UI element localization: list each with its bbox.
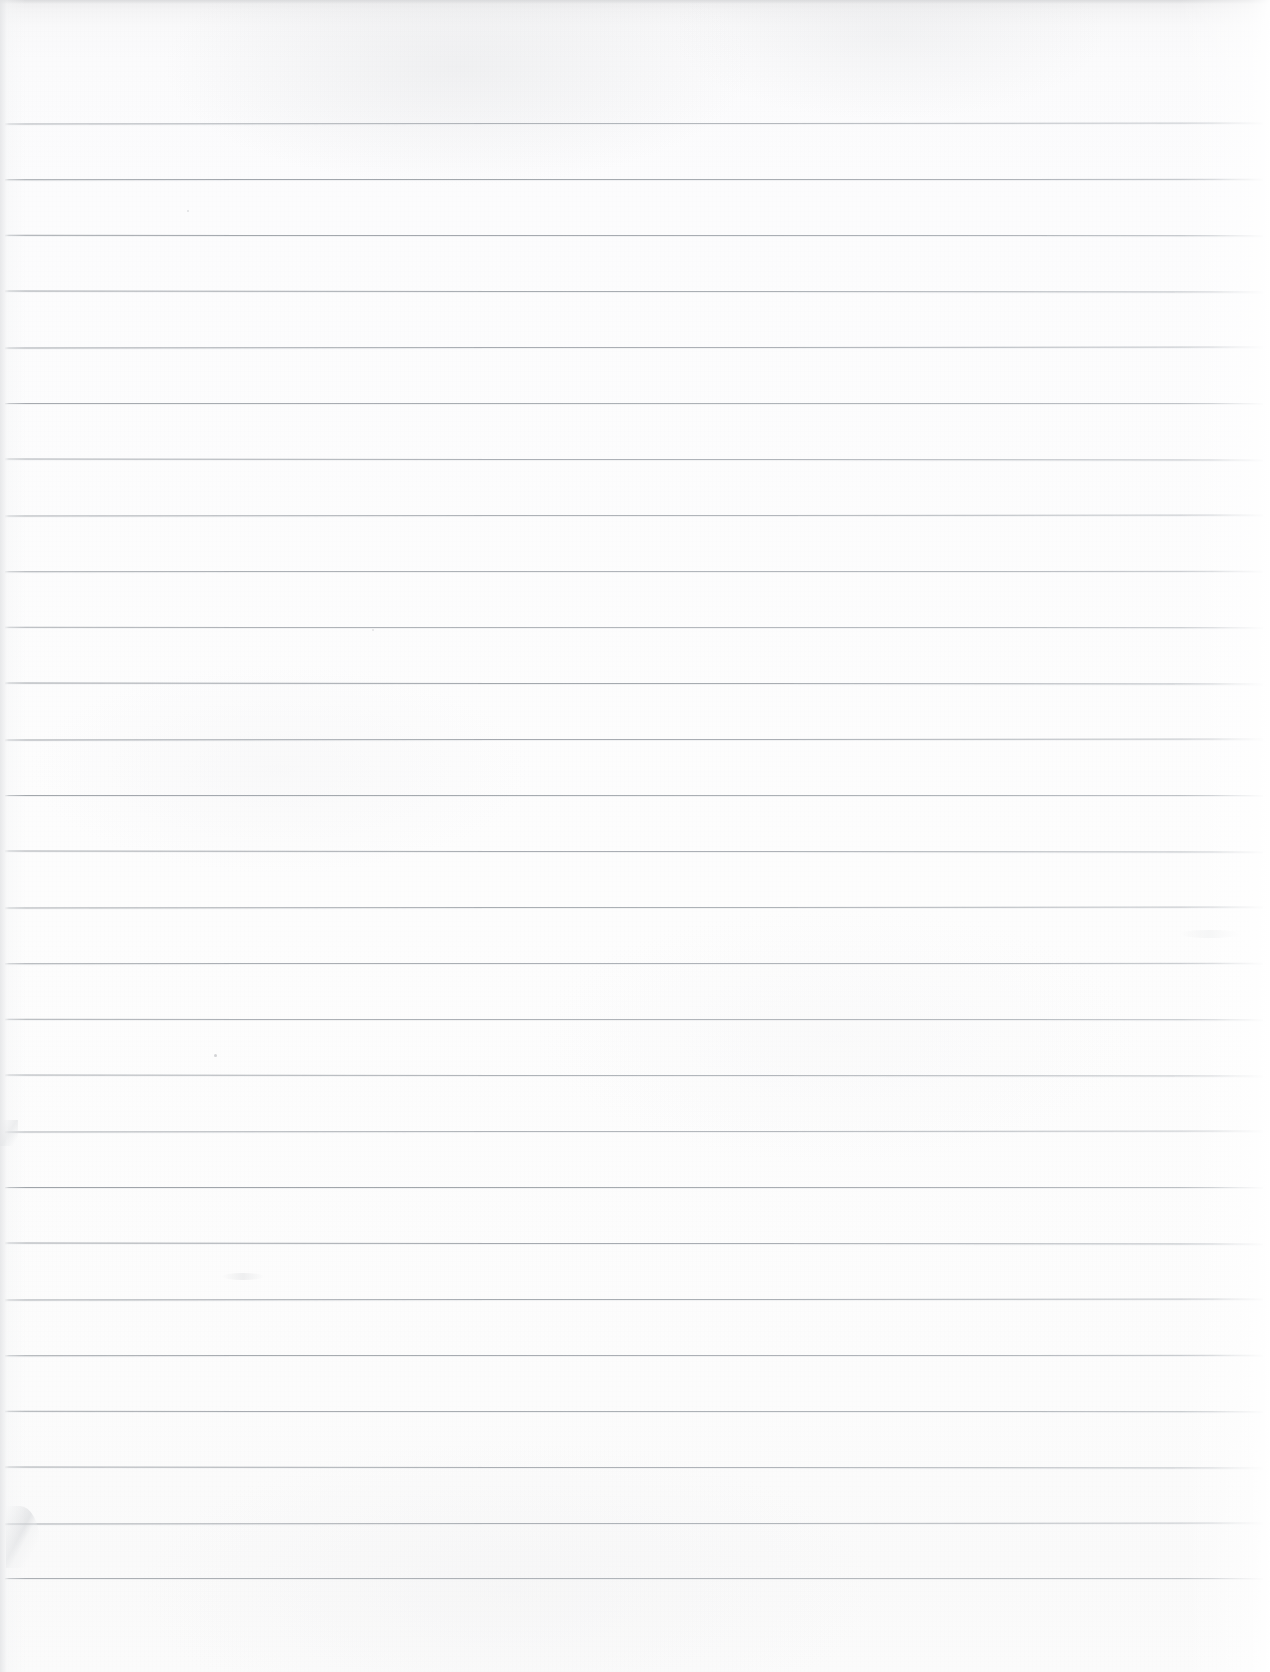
scanned-page (0, 0, 1270, 1672)
paper-background (0, 0, 1270, 1672)
